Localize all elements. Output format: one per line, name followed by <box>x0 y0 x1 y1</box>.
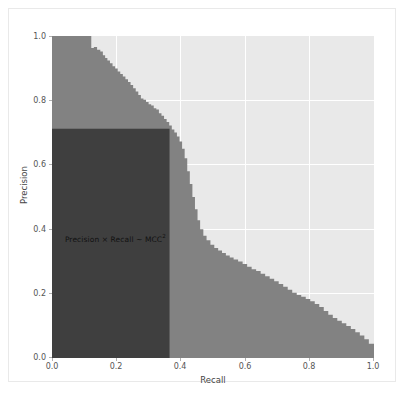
x-axis-label: Recall <box>52 375 374 385</box>
ytick-mark-5 <box>49 36 52 37</box>
ytick-label-0: 0.0 <box>18 353 46 362</box>
mcc-annotation-label: Precision × Recall ~ MCC2 <box>65 233 166 244</box>
xtick-mark-1 <box>116 358 117 361</box>
ytick-label-5: 1.0 <box>18 32 46 41</box>
ytick-mark-4 <box>49 100 52 101</box>
xtick-label-4: 0.8 <box>294 362 324 371</box>
xtick-mark-0 <box>52 358 53 361</box>
xtick-label-1: 0.2 <box>101 362 131 371</box>
mcc-annotation-text: Precision × Recall ~ MCC <box>65 235 162 244</box>
xtick-label-2: 0.4 <box>165 362 195 371</box>
xtick-label-0: 0.0 <box>37 362 67 371</box>
ytick-mark-0 <box>49 357 52 358</box>
ytick-label-1: 0.2 <box>18 289 46 298</box>
figure-canvas: Precision × Recall ~ MCC2 0.0 0.2 0.4 0.… <box>0 0 406 404</box>
ytick-label-4: 0.8 <box>18 96 46 105</box>
xtick-mark-5 <box>373 358 374 361</box>
xtick-mark-2 <box>180 358 181 361</box>
xtick-mark-4 <box>309 358 310 361</box>
ytick-mark-1 <box>49 293 52 294</box>
pr-curve-svg <box>52 36 374 358</box>
xtick-label-3: 0.6 <box>230 362 260 371</box>
mcc-annotation-superscript: 2 <box>162 233 166 239</box>
y-axis-label: Precision <box>19 115 29 255</box>
xtick-label-5: 1.0 <box>358 362 388 371</box>
plot-area: Precision × Recall ~ MCC2 <box>52 36 374 358</box>
xtick-mark-3 <box>245 358 246 361</box>
ytick-mark-3 <box>49 164 52 165</box>
ytick-mark-2 <box>49 229 52 230</box>
